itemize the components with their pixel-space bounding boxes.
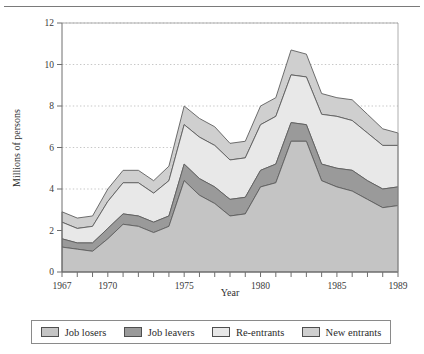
y-tick-label: 10 (45, 60, 55, 70)
chart-area: 024681012196719701975198019851989 Year M… (0, 0, 424, 300)
stacked-area-series (62, 50, 398, 272)
x-tick-label: 1985 (327, 281, 346, 291)
legend-new-entrants[interactable]: New entrants (302, 327, 382, 338)
legend-label: Re-entrants (236, 327, 284, 338)
x-tick-label: 1970 (98, 281, 117, 291)
legend-swatch-icon (124, 327, 142, 337)
legend-swatch-icon (41, 327, 59, 337)
y-tick-label: 4 (49, 184, 54, 194)
legend-label: New entrants (326, 327, 382, 338)
y-tick-label: 2 (49, 226, 54, 236)
legend-job-losers[interactable]: Job losers (41, 327, 107, 338)
legend-re-entrants[interactable]: Re-entrants (212, 327, 284, 338)
x-tick-label: 1980 (251, 281, 270, 291)
y-axis-title: Millions of persons (11, 109, 22, 187)
y-tick-label: 0 (49, 267, 54, 277)
figure-container: 024681012196719701975198019851989 Year M… (0, 0, 424, 354)
legend-job-leavers[interactable]: Job leavers (124, 327, 195, 338)
legend-label: Job losers (65, 327, 107, 338)
y-tick-label: 6 (49, 143, 54, 153)
legend-swatch-icon (212, 327, 230, 337)
x-tick-label: 1975 (175, 281, 194, 291)
chart-legend: Job losersJob leaversRe-entrantsNew entr… (31, 320, 391, 344)
x-tick-label: 1967 (53, 281, 72, 291)
x-tick-label: 1989 (389, 281, 408, 291)
x-axis-title: Year (221, 287, 240, 298)
area-chart-svg: 024681012196719701975198019851989 Year M… (0, 0, 424, 300)
y-tick-label: 12 (45, 18, 55, 28)
y-tick-label: 8 (49, 101, 54, 111)
legend-swatch-icon (302, 327, 320, 337)
legend-label: Job leavers (148, 327, 195, 338)
